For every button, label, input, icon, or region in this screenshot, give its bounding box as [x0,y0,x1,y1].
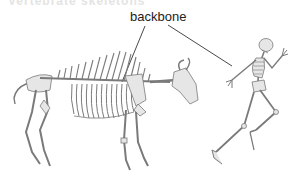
ribcage [71,84,134,118]
bison-skeleton [14,51,198,170]
knee-joint [242,124,247,129]
leader-line-human [168,25,232,66]
knee-joint [121,138,127,143]
knee-joint [274,110,279,115]
human-skeleton [212,39,288,165]
skeleton-illustration [0,0,305,180]
diagram-canvas: Vertebrate skeletons backbone [0,0,305,180]
